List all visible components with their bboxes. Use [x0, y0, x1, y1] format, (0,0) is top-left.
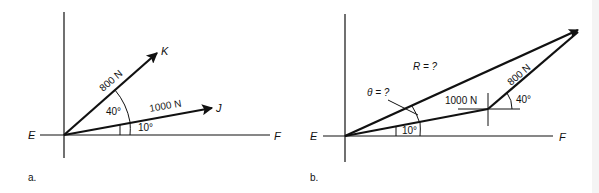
panel-a-angle-label-10: 10°	[138, 122, 153, 133]
panel-a-angle-label-40: 40°	[106, 106, 121, 117]
panel-b-angle-arc-40	[507, 93, 512, 109]
panel-b-vector-800	[488, 32, 578, 109]
panel-a: E F K J 800 N 1000 N 40° 10° a.	[28, 12, 282, 183]
panel-b-label-f: F	[559, 131, 567, 143]
panel-a-label-e: E	[28, 129, 36, 141]
panel-b-resultant-label: R = ?	[413, 61, 438, 72]
panel-b-label-e: E	[310, 130, 318, 142]
panel-a-label-j: J	[215, 102, 222, 114]
panel-a-magnitude-1000: 1000 N	[148, 98, 182, 114]
panel-a-magnitude-800: 800 N	[97, 68, 124, 94]
panel-b-resultant	[345, 30, 578, 136]
panel-b-theta-label: θ = ?	[367, 87, 390, 98]
panel-b-caption: b.	[310, 172, 318, 183]
panel-a-caption: a.	[28, 172, 36, 183]
panel-b-theta-leader	[388, 100, 418, 115]
panel-b-magnitude-1000: 1000 N	[445, 95, 477, 106]
panel-a-label-k: K	[161, 45, 169, 57]
panel-b-angle-label-40: 40°	[516, 94, 531, 105]
vector-addition-diagram: E F K J 800 N 1000 N 40° 10° a.	[0, 0, 599, 193]
panel-b: E F R = ? θ = ? 1000 N 800 N 40° 10° b.	[310, 14, 578, 183]
panel-b-angle-label-10: 10°	[402, 125, 417, 136]
panel-a-label-f: F	[274, 130, 282, 142]
